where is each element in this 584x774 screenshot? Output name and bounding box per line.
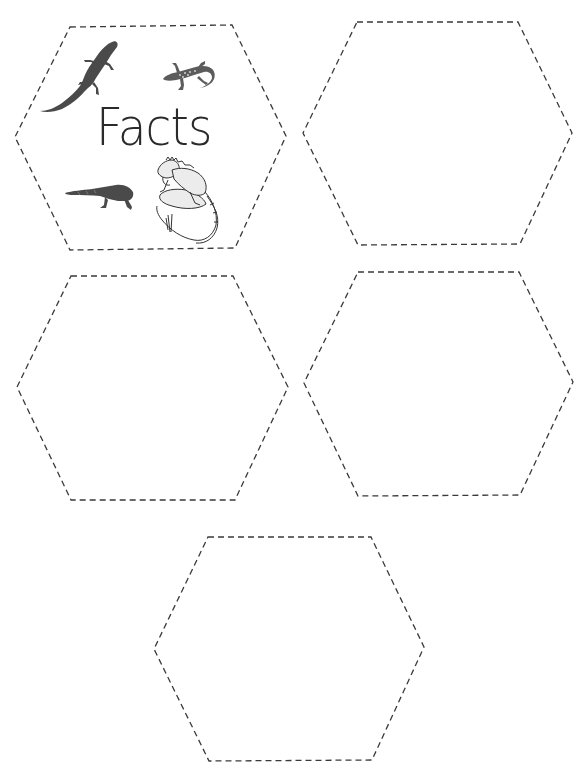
gecko-icon [163, 61, 215, 90]
iguana-icon [157, 157, 218, 243]
hexagon-card-3 [17, 276, 288, 500]
gila-monster-icon [65, 185, 133, 210]
hexagon-card-2 [303, 22, 572, 245]
worksheet-page: Facts [0, 0, 584, 774]
hexagon-layout [0, 0, 584, 774]
hexagon-card-4 [304, 272, 573, 496]
hexagon-card-5 [154, 537, 424, 761]
card-title: Facts [96, 98, 203, 158]
